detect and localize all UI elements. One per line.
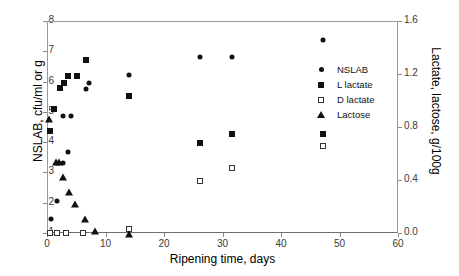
y-axis-right-tick-label: 0.0 — [404, 226, 434, 237]
data-point-l-lactate — [197, 140, 203, 146]
data-point-l-lactate — [61, 80, 67, 86]
data-point-lactose — [91, 228, 99, 235]
data-point-lactose — [81, 216, 89, 223]
x-axis-tick-mark — [281, 233, 282, 237]
y-axis-right-tick-mark — [398, 21, 402, 22]
data-point-lactose — [59, 174, 67, 181]
data-point-nslab — [86, 80, 91, 85]
data-point-d-lactate — [80, 230, 86, 236]
x-axis-tick-label: 40 — [266, 238, 296, 249]
legend-marker-filled-circle-icon — [314, 67, 328, 72]
data-point-l-lactate — [229, 131, 235, 137]
legend-item-nslab[interactable]: NSLAB — [314, 62, 375, 77]
x-axis-tick-label: 30 — [208, 238, 238, 249]
x-axis-tick-label: 10 — [91, 238, 121, 249]
data-point-d-lactate — [54, 230, 60, 236]
x-axis-tick-mark — [106, 233, 107, 237]
x-axis-tick-label: 0 — [32, 238, 62, 249]
data-point-lactose — [55, 158, 63, 165]
data-point-nslab — [84, 86, 89, 91]
data-point-d-lactate — [320, 143, 326, 149]
x-axis-tick-mark — [223, 233, 224, 237]
data-point-nslab — [48, 216, 53, 221]
data-point-l-lactate — [74, 73, 80, 79]
data-point-d-lactate — [229, 165, 235, 171]
legend-marker-filled-triangle-icon — [314, 111, 328, 118]
plot-area — [47, 21, 398, 233]
data-point-l-lactate — [320, 131, 326, 137]
data-point-lactose — [125, 231, 133, 238]
x-axis-tick-label: 50 — [325, 238, 355, 249]
data-point-lactose — [71, 200, 79, 207]
data-point-nslab — [198, 54, 203, 59]
y-axis-right-tick-label: 1.2 — [404, 67, 434, 78]
legend-marker-filled-square-icon — [314, 82, 328, 88]
y-axis-right-tick-label: 0.4 — [404, 173, 434, 184]
y-axis-right-tick-mark — [398, 180, 402, 181]
data-point-d-lactate — [47, 230, 53, 236]
x-axis-tick-mark — [398, 233, 399, 237]
x-axis-title: Ripening time, days — [47, 252, 398, 266]
data-point-l-lactate — [126, 93, 132, 99]
x-axis-tick-label: 20 — [149, 238, 179, 249]
legend-label: D lactate — [337, 94, 375, 105]
data-point-nslab — [320, 38, 325, 43]
data-points-layer — [48, 22, 397, 232]
data-point-nslab — [126, 73, 131, 78]
data-point-nslab — [69, 113, 74, 118]
y-axis-right-tick-label: 0.8 — [404, 120, 434, 131]
data-point-nslab — [230, 54, 235, 59]
legend-label: Lactose — [337, 109, 370, 120]
data-point-l-lactate — [65, 73, 71, 79]
data-point-nslab — [60, 113, 65, 118]
data-point-lactose — [45, 116, 53, 123]
x-axis-tick-mark — [340, 233, 341, 237]
legend-label: L lactate — [337, 79, 373, 90]
data-point-l-lactate — [83, 57, 89, 63]
data-point-d-lactate — [197, 178, 203, 184]
chart-legend: NSLABL lactateD lactateLactose — [314, 62, 375, 122]
data-point-l-lactate — [51, 106, 57, 112]
scatter-chart-figure: NSLAB, cfu/ml or g Lactate, lactose, g/1… — [0, 0, 459, 276]
y-axis-right-tick-label: 1.6 — [404, 14, 434, 25]
data-point-nslab — [54, 198, 59, 203]
legend-item-l-lactate[interactable]: L lactate — [314, 77, 375, 92]
legend-item-d-lactate[interactable]: D lactate — [314, 92, 375, 107]
x-axis-tick-mark — [164, 233, 165, 237]
legend-marker-open-square-icon — [314, 97, 328, 103]
y-axis-right-tick-mark — [398, 127, 402, 128]
data-point-lactose — [65, 189, 73, 196]
data-point-nslab — [66, 150, 71, 155]
data-point-l-lactate — [47, 128, 53, 134]
data-point-d-lactate — [63, 230, 69, 236]
legend-label: NSLAB — [337, 64, 368, 75]
data-point-l-lactate — [57, 85, 63, 91]
y-axis-right-tick-mark — [398, 74, 402, 75]
legend-item-lactose[interactable]: Lactose — [314, 107, 375, 122]
x-axis-tick-label: 60 — [383, 238, 413, 249]
